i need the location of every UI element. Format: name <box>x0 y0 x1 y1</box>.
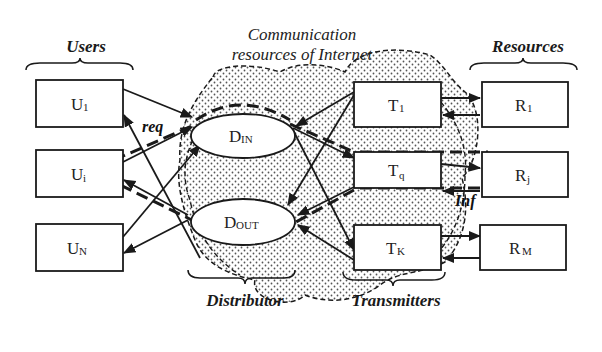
svg-text:M: M <box>522 245 532 257</box>
svg-text:i: i <box>83 172 86 184</box>
resources-header: Resources <box>491 37 564 56</box>
svg-text:R: R <box>509 239 521 258</box>
svg-text:1: 1 <box>83 101 89 113</box>
svg-text:U: U <box>67 239 79 258</box>
network-architecture-diagram: Communication resources of Internet User… <box>0 0 602 352</box>
transmitter-node-tq[interactable]: T q <box>354 152 441 188</box>
svg-text:U: U <box>71 165 83 184</box>
svg-text:1: 1 <box>527 102 533 114</box>
distributor-in-node[interactable]: D IN <box>191 114 295 158</box>
information-label: Inf <box>454 192 477 210</box>
svg-text:R: R <box>515 96 527 115</box>
cloud-title-line2: resources of Internet <box>232 45 374 64</box>
svg-text:1: 1 <box>399 102 405 114</box>
svg-text:U: U <box>71 95 83 114</box>
svg-text:N: N <box>79 245 87 257</box>
resource-node-rm[interactable]: R M <box>480 225 566 270</box>
resource-node-rj[interactable]: R j <box>482 152 568 197</box>
transmitters-label: Transmitters <box>351 291 440 310</box>
svg-text:T: T <box>388 96 399 115</box>
user-node-ui[interactable]: U i <box>36 150 123 197</box>
svg-text:OUT: OUT <box>236 219 259 231</box>
svg-text:K: K <box>397 245 405 257</box>
svg-text:T: T <box>386 239 397 258</box>
user-node-u1[interactable]: U 1 <box>36 80 123 127</box>
cloud-title-line1: Communication <box>248 25 357 44</box>
svg-text:D: D <box>229 127 241 146</box>
users-header: Users <box>66 37 106 56</box>
request-label: req <box>142 118 163 136</box>
svg-text:R: R <box>515 166 527 185</box>
svg-text:q: q <box>399 169 405 181</box>
resource-node-r1[interactable]: R 1 <box>482 82 568 127</box>
svg-text:D: D <box>224 213 236 232</box>
svg-text:T: T <box>388 161 399 180</box>
distributor-out-node[interactable]: D OUT <box>191 199 295 245</box>
svg-text:j: j <box>526 173 530 185</box>
users-brace-icon <box>26 58 133 70</box>
distributor-label: Distributor <box>205 291 284 310</box>
transmitter-node-tk[interactable]: T K <box>354 225 441 270</box>
svg-text:IN: IN <box>241 133 253 145</box>
user-node-un[interactable]: U N <box>36 224 123 271</box>
transmitter-node-t1[interactable]: T 1 <box>354 82 441 127</box>
resources-brace-icon <box>470 58 577 70</box>
